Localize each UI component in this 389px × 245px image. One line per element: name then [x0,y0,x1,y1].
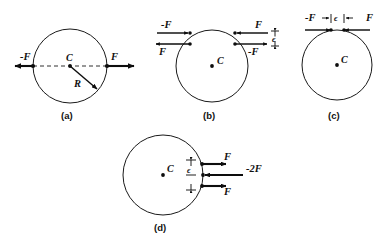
panel-c-center-dot [335,63,339,67]
panel-d-force-label-lower: F [223,186,231,197]
panel-d: ϵ F -2F F C (d) [123,135,262,233]
panel-d-tag: (d) [154,222,166,233]
panel-b-force-label-lower-left: F [158,46,166,57]
panel-c-epsilon-label: ϵ [334,13,338,23]
panel-b-tag: (b) [203,110,215,121]
panel-c: ϵ -F F C (c) [302,12,373,121]
panel-a-force-label-left: -F [20,51,31,62]
panel-b-application-point-upper-left [188,31,192,35]
panel-a-center-label: C [66,52,73,63]
panel-a-tag: (a) [61,110,73,121]
panel-d-epsilon-label: ϵ [187,165,191,175]
panel-b-force-label-upper-left: -F [161,19,172,30]
panel-d-force-label-upper: F [223,151,231,162]
panel-b-force-label-lower-right: -F [248,46,259,57]
panel-a-application-point-left [31,64,35,68]
panel-a: -F F C R (a) [15,29,134,121]
panel-c-application-point-right [342,28,346,32]
panel-c-center-label: C [341,54,348,65]
panel-d-center-dot [161,173,165,177]
panel-d-application-point-middle [201,173,205,177]
panel-b-application-point-lower-right [233,42,237,46]
panel-b-center-dot [210,64,214,68]
panel-c-force-label-right: F [365,12,373,23]
panel-c-tag: (c) [328,110,340,121]
panel-b-force-label-upper-right: F [254,19,262,30]
panel-b-epsilon-label: ϵ [272,34,276,44]
physics-figure: -F F C R (a) ϵ [0,0,389,245]
panel-b: ϵ -F F F -F C (b) [156,19,279,121]
panel-d-force-label-middle: -2F [246,163,262,174]
panel-d-application-point-upper [200,162,204,166]
panel-d-center-label: C [167,163,174,174]
panel-c-application-point-left [329,28,333,32]
panel-b-application-point-upper-right [233,31,237,35]
panel-d-application-point-lower [200,184,204,188]
panel-a-radius-label: R [73,78,81,89]
panel-a-application-point-right [105,64,109,68]
panel-b-application-point-lower-left [188,42,192,46]
panel-a-force-label-right: F [110,51,118,62]
figure-canvas: -F F C R (a) ϵ [0,0,389,245]
panel-b-center-label: C [217,55,224,66]
panel-c-force-label-left: -F [305,12,316,23]
